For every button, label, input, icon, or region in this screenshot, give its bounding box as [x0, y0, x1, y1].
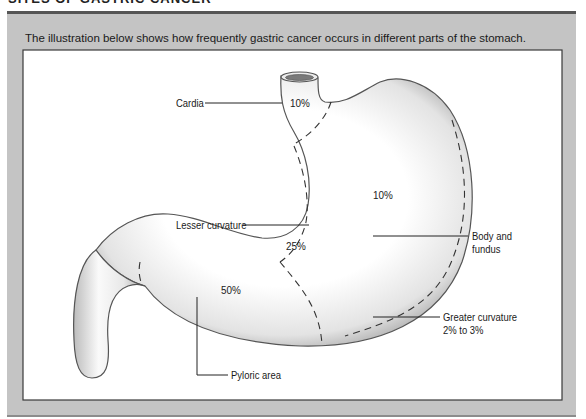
body-fundus-percent: 10% [373, 189, 393, 201]
stomach-illustration [0, 0, 586, 419]
cardia-percent: 10% [290, 97, 310, 109]
pyloric-label: Pyloric area [231, 369, 281, 382]
cardia-label: Cardia [176, 97, 204, 110]
lesser-curvature-percent: 25% [286, 240, 306, 252]
lesser-curvature-label: Lesser curvature [176, 219, 246, 232]
greater-curvature-label: Greater curvature 2% to 3% [443, 311, 517, 337]
pyloric-percent: 50% [221, 284, 241, 296]
body-fundus-label: Body and fundus [472, 230, 512, 256]
